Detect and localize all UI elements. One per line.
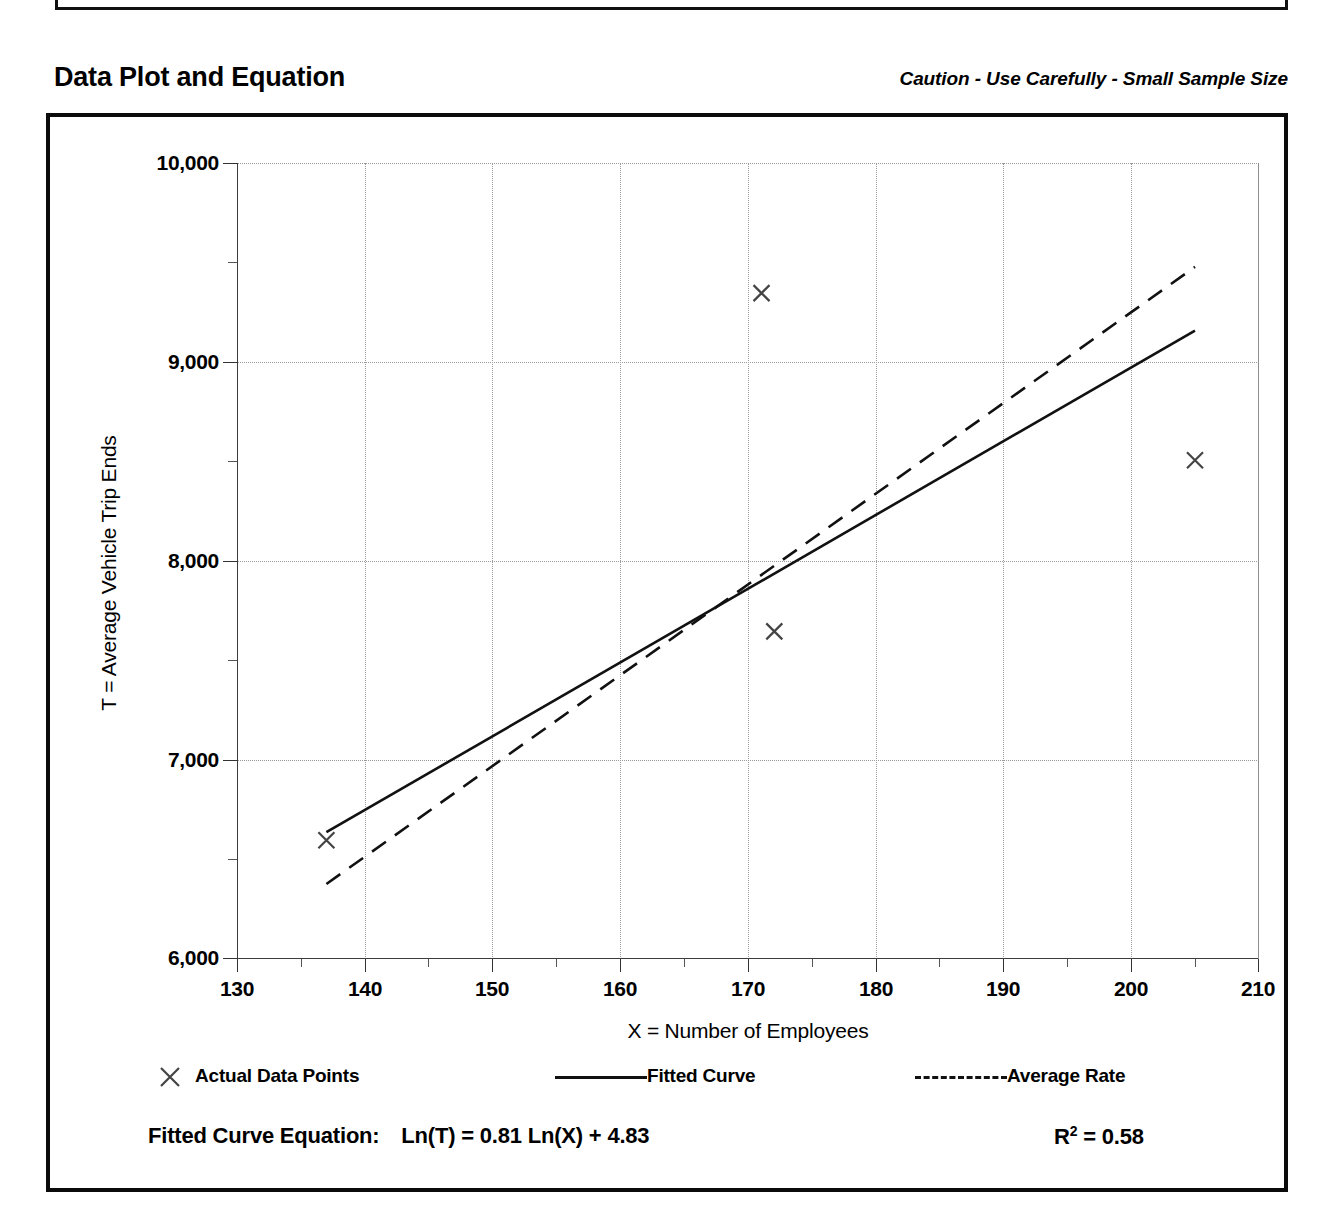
xtick-label-160: 160 [575,977,665,1001]
header: Data Plot and Equation Caution - Use Car… [0,62,1338,104]
xtick-165 [684,958,685,967]
data-point-marker [766,623,782,639]
page-corner-code: 9.13 [1075,0,1106,1]
legend-label-fitted-curve: Fitted Curve [647,1065,755,1087]
xtick-150 [492,958,493,972]
fitted-curve-equation: Fitted Curve Equation: Ln(T) = 0.81 Ln(X… [148,1123,649,1149]
xtick-label-180: 180 [831,977,921,1001]
legend-item-fitted-curve: Fitted Curve [555,1061,755,1091]
equation-label: Fitted Curve Equation: [148,1123,380,1148]
xtick-135 [301,958,302,967]
chart-legend: Actual Data Points Fitted Curve Average … [50,1061,1292,1097]
ytick-7000 [223,760,237,761]
equation-expression: Ln(T) = 0.81 Ln(X) + 4.83 [401,1123,649,1148]
xtick-label-130: 130 [192,977,282,1001]
xtick-205 [1195,958,1196,967]
page-top-frame [55,0,1288,10]
ytick-8000 [223,561,237,562]
xtick-180 [876,958,877,972]
xtick-label-140: 140 [320,977,410,1001]
data-point-marker [754,285,770,301]
xtick-210 [1258,958,1259,972]
series-fitted-curve [326,331,1195,833]
legend-label-actual-data-points: Actual Data Points [195,1065,359,1087]
data-point-marker [1187,452,1203,468]
ytick-10000 [223,163,237,164]
ytick-7500 [228,660,237,661]
solid-line-icon [555,1062,647,1090]
ytick-9000 [223,362,237,363]
chart-data-layer [237,163,1259,959]
y-axis-title: T = Average Vehicle Trip Ends [97,353,121,793]
x-axis-title: X = Number of Employees [237,1019,1259,1043]
xtick-label-150: 150 [447,977,537,1001]
xtick-160 [620,958,621,972]
ytick-6500 [228,859,237,860]
xtick-175 [812,958,813,967]
xtick-label-210: 210 [1213,977,1303,1001]
data-point-marker [318,832,334,848]
r-squared-exponent: 2 [1070,1123,1078,1139]
xtick-140 [365,958,366,972]
ytick-label-10000: 10,000 [99,151,219,175]
series-average-rate [326,267,1195,884]
xtick-195 [1067,958,1068,967]
xtick-185 [939,958,940,967]
xtick-155 [556,958,557,967]
equation-row: Fitted Curve Equation: Ln(T) = 0.81 Ln(X… [50,1123,1292,1163]
xtick-200 [1131,958,1132,972]
x-marker-icon [155,1062,195,1090]
plot-area: 10,000 9,000 8,000 7,000 6,000 130 140 [237,163,1259,959]
r-squared-label: R [1054,1124,1070,1149]
r-squared-value: R2 = 0.58 [1054,1123,1144,1150]
xtick-190 [1003,958,1004,972]
dashed-line-icon [915,1062,1007,1090]
caution-note: Caution - Use Carefully - Small Sample S… [900,68,1288,90]
xtick-170 [748,958,749,972]
ytick-9500 [228,262,237,263]
xtick-label-200: 200 [1086,977,1176,1001]
chart-panel: 10,000 9,000 8,000 7,000 6,000 130 140 [46,113,1288,1192]
xtick-label-170: 170 [703,977,793,1001]
page-title: Data Plot and Equation [54,62,345,93]
xtick-label-190: 190 [958,977,1048,1001]
ytick-6000 [223,958,237,959]
xtick-145 [428,958,429,967]
xtick-130 [237,958,238,972]
legend-item-average-rate: Average Rate [915,1061,1125,1091]
r-squared-number: = 0.58 [1083,1124,1144,1149]
ytick-8500 [228,461,237,462]
ytick-label-6000: 6,000 [99,946,219,970]
legend-label-average-rate: Average Rate [1007,1065,1125,1087]
legend-item-actual-data-points: Actual Data Points [155,1061,359,1091]
